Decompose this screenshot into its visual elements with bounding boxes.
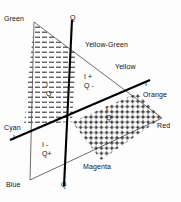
quadrant-q-value: Q xyxy=(46,90,52,99)
hue-label-red: Red xyxy=(157,122,170,130)
quadrant-q-value: Q xyxy=(106,114,112,123)
quadrant-label-i-plus-q-plus: I Q xyxy=(106,105,112,122)
axis-label-q-bottom: Q xyxy=(61,181,67,189)
quadrant-label-i-plus-q-minus: I + Q - xyxy=(84,73,94,90)
hue-label-blue: Blue xyxy=(6,181,20,189)
quadrant-i-value: I xyxy=(106,105,112,114)
region-hatched-red xyxy=(72,93,162,160)
quadrant-q-value: Q - xyxy=(84,82,94,91)
quadrant-i-value: I + xyxy=(84,73,94,82)
hue-label-orange: Orange xyxy=(143,91,167,99)
hue-label-green: Green xyxy=(4,15,24,23)
hue-label-yellow-green: Yellow-Green xyxy=(85,41,128,49)
hue-label-yellow: Yellow xyxy=(115,63,136,71)
diagram-canvas xyxy=(0,0,181,202)
yiq-color-vector-diagram: Green Yellow-Green Yellow Orange Red Mag… xyxy=(0,0,181,202)
hue-label-magenta: Magenta xyxy=(83,163,111,171)
axis-label-i-right: I xyxy=(145,80,147,88)
hue-label-cyan: Cyan xyxy=(4,124,21,132)
quadrant-label-i-minus-q-minus: I Q xyxy=(46,81,52,98)
quadrant-i-value: I xyxy=(46,81,52,90)
axis-label-i-left: I xyxy=(13,134,15,142)
quadrant-q-value: Q+ xyxy=(42,150,52,159)
quadrant-i-value: I - xyxy=(42,141,52,150)
quadrant-label-i-minus-q-plus: I - Q+ xyxy=(42,141,52,158)
axis-label-q-top: Q xyxy=(70,14,76,22)
